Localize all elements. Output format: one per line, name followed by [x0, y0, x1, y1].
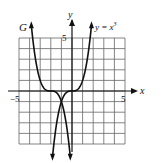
curve-g-label: G — [19, 21, 27, 33]
curve-arrow-icon — [29, 21, 34, 28]
x-axis-label: x — [139, 85, 145, 96]
x-max-tick-label: 5 — [121, 94, 126, 104]
y-axis-arrow-icon — [69, 19, 75, 26]
curve-arrow-icon — [50, 154, 55, 161]
curve-arrow-icon — [68, 154, 73, 161]
curve-cubic-label: y = x3 — [94, 21, 117, 32]
axes — [8, 19, 138, 152]
y-axis-label: y — [67, 9, 73, 20]
x-min-tick-label: −5 — [10, 94, 20, 104]
y-max-tick-label: 5 — [62, 33, 67, 43]
graph: y x −5 5 5 G y = x3 — [0, 0, 163, 163]
x-axis-arrow-icon — [131, 88, 138, 94]
curve-arrow-icon — [89, 21, 94, 28]
